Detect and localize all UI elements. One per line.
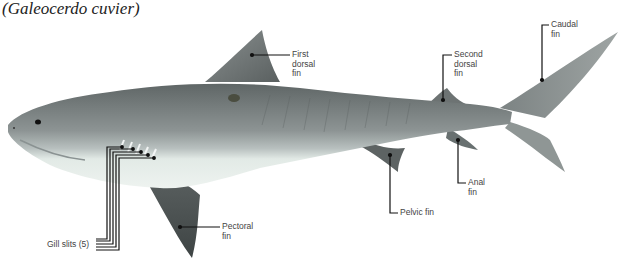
label-anal-fin: Anal fin <box>468 178 485 197</box>
caudal-fin-upper <box>500 32 618 118</box>
label-line: Pelvic fin <box>400 208 434 218</box>
label-line: Gill slits (5) <box>47 240 89 250</box>
label-line: fin <box>551 30 578 40</box>
shark-illustration <box>0 0 622 259</box>
caudal-fin-lower <box>505 122 565 172</box>
label-first-dorsal-fin: First dorsal fin <box>292 50 315 79</box>
label-pelvic-fin: Pelvic fin <box>400 208 434 218</box>
label-line: fin <box>468 188 485 198</box>
label-gill-slits: Gill slits (5) <box>47 240 89 250</box>
label-second-dorsal-fin: Second dorsal fin <box>454 50 483 79</box>
body-blotch <box>228 94 240 102</box>
first-dorsal-fin <box>205 30 280 82</box>
eye <box>35 120 41 125</box>
label-line: fin <box>454 69 483 79</box>
label-line: fin <box>222 232 253 242</box>
label-line: fin <box>292 69 315 79</box>
label-caudal-fin: Caudal fin <box>551 20 578 39</box>
label-pectoral-fin: Pectoral fin <box>222 222 253 241</box>
nostril <box>13 127 15 129</box>
